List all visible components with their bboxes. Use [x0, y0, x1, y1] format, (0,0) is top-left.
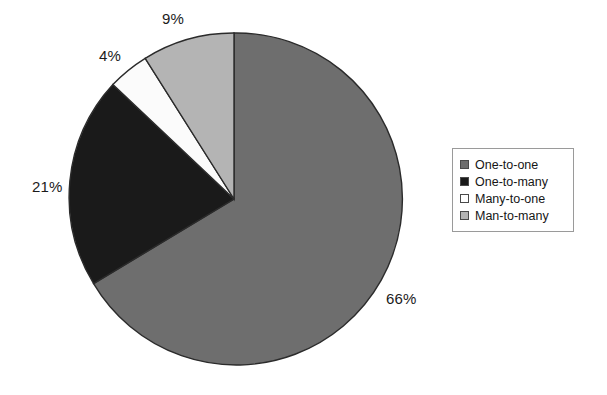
data-label-many-to-one: 4%: [99, 48, 121, 64]
legend-label: One-to-one: [475, 158, 538, 172]
chart-legend: One-to-one One-to-many Many-to-one Man-t…: [452, 148, 574, 232]
legend-label: Many-to-one: [475, 192, 545, 206]
legend-item-one-to-one[interactable]: One-to-one: [460, 156, 567, 173]
legend-swatch-icon: [460, 177, 469, 186]
legend-item-man-to-many[interactable]: Man-to-many: [460, 207, 567, 224]
legend-label: Man-to-many: [475, 209, 549, 223]
legend-item-one-to-many[interactable]: One-to-many: [460, 173, 567, 190]
data-label-man-to-many: 9%: [162, 11, 184, 27]
legend-swatch-icon: [460, 160, 469, 169]
legend-item-many-to-one[interactable]: Many-to-one: [460, 190, 567, 207]
data-label-one-to-one: 66%: [386, 291, 417, 307]
data-label-one-to-many: 21%: [32, 179, 63, 195]
legend-swatch-icon: [460, 194, 469, 203]
legend-label: One-to-many: [475, 175, 548, 189]
pie-chart: 66% 21% 4% 9% One-to-one One-to-many Man…: [0, 0, 607, 395]
legend-swatch-icon: [460, 211, 469, 220]
